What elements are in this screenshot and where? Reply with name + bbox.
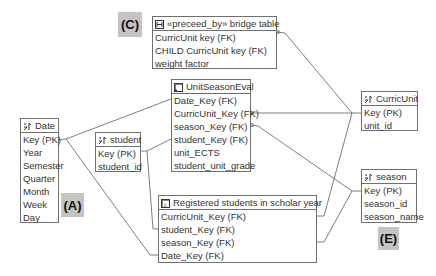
label-e: (E) [378, 227, 399, 250]
table-field: Key (PK) [362, 184, 416, 197]
table-field: student_Key (FK) [172, 133, 250, 146]
table-season[interactable]: season Key (PK) season_id season_name [361, 169, 417, 223]
dimension-icon [364, 172, 373, 181]
table-field: unit_id [362, 119, 417, 132]
rel-unitseasoneval-season [250, 125, 361, 191]
table-header: CurricUnit [362, 92, 417, 106]
table-field: Day [21, 211, 58, 224]
table-field: season_Key (FK) [172, 120, 250, 133]
table-field: Key (PK) [96, 147, 140, 160]
table-header: c Registered students in scholar year [159, 196, 316, 210]
table-field: student_id [96, 160, 140, 173]
rel-bridge-curricunit [276, 32, 361, 113]
table-field: season_id [362, 197, 416, 210]
table-field: CurricUnit_Key (FK) [172, 107, 250, 120]
table-header: student [96, 133, 140, 147]
table-field: Date_Key (FK) [172, 94, 250, 107]
rel-student-registered [147, 151, 158, 229]
table-title: CurricUnit [376, 92, 418, 105]
er-diagram-canvas: (C) (A) (D) (E) «preceed_by» bridge tabl… [0, 0, 436, 276]
table-unitseasoneval[interactable]: UnitSeasonEval Date_Key (FK) CurricUnit_… [171, 79, 251, 172]
bridge-table-icon [155, 19, 164, 28]
table-title: student [110, 133, 141, 146]
table-student[interactable]: student Key (PK) student_id [95, 132, 141, 172]
table-bridge[interactable]: «preceed_by» bridge table CurricUnit key… [152, 16, 277, 69]
table-header: UnitSeasonEval [172, 80, 250, 94]
table-title: UnitSeasonEval [186, 80, 254, 93]
factless-table-icon: c [161, 198, 170, 207]
label-a: (A) [61, 193, 84, 217]
table-field: CurricUnit key (FK) [153, 31, 276, 44]
table-curricunit[interactable]: CurricUnit Key (PK) unit_id [361, 91, 418, 131]
fact-table-icon [174, 82, 183, 91]
table-field: Date_Key (FK) [159, 249, 316, 262]
table-header: «preceed_by» bridge table [153, 17, 276, 31]
table-field: Week [21, 198, 58, 211]
dimension-icon [23, 121, 32, 130]
table-field: Key (PK) [21, 133, 58, 146]
table-field: Semester [21, 159, 58, 172]
table-title: «preceed_by» bridge table [167, 17, 280, 30]
table-field: Month [21, 185, 58, 198]
label-c: (C) [118, 12, 142, 37]
table-field: CHILD CurricUnit key (FK) [153, 44, 276, 57]
dimension-icon [364, 94, 373, 103]
table-date[interactable]: Date Key (PK) Year Semester Quarter Mont… [20, 118, 59, 223]
rel-student-unitseasoneval [140, 139, 171, 151]
table-field: unit_ECTS [172, 146, 250, 159]
table-title: Registered students in scholar year [173, 196, 322, 209]
table-header: season [362, 170, 416, 184]
table-field: student_unit_grade [172, 159, 250, 172]
table-title: season [376, 170, 407, 183]
table-title: Date [35, 119, 55, 132]
table-field: season_Key (FK) [159, 236, 316, 249]
table-field: season_name [362, 210, 416, 223]
table-field: CurricUnit_Key (FK) [159, 210, 316, 223]
table-registered-students[interactable]: c Registered students in scholar year Cu… [158, 195, 317, 263]
table-field: Key (PK) [362, 106, 417, 119]
table-header: Date [21, 119, 58, 133]
table-field: weight factor [153, 57, 276, 70]
table-field: Quarter [21, 172, 58, 185]
table-field: student_Key (FK) [159, 223, 316, 236]
dimension-icon [98, 135, 107, 144]
table-field: Year [21, 146, 58, 159]
